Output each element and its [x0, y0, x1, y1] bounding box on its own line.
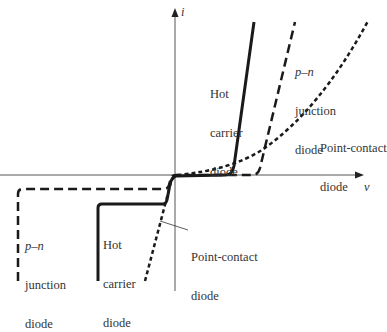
point-contact-leader: [160, 221, 188, 230]
label-hot-carrier-top: Hot carrier diode: [210, 62, 243, 192]
label-point-contact-top: Point-contact diode: [320, 116, 387, 207]
y-axis-label: i: [181, 6, 184, 19]
label-pn-bottom: p–n junction diode: [25, 214, 66, 332]
y-axis-arrow-icon: [172, 8, 179, 17]
label-point-contact-bottom: Point-contact diode: [191, 225, 258, 316]
label-hot-carrier-bottom: Hot carrier diode: [103, 213, 136, 332]
